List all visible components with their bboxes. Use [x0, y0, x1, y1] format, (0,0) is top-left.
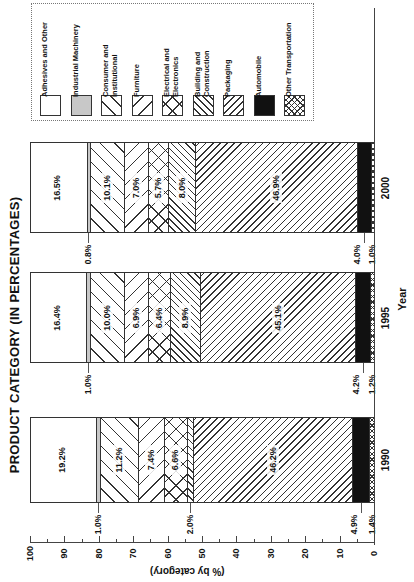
segment-value-label: 46.9%	[270, 173, 282, 203]
year-tick-label: 1995	[380, 301, 392, 335]
segment-value-label: 11.2%	[113, 445, 125, 475]
axis-minor-tick	[116, 539, 117, 542]
value-axis-label: (% by category)	[150, 566, 224, 577]
axis-minor-tick	[219, 539, 220, 542]
axis-minor-tick	[82, 539, 83, 542]
axis-tick	[30, 536, 31, 542]
segment-callout-label: 1.0%	[82, 370, 93, 400]
axis-tick-label: 70	[128, 543, 139, 565]
segment-callout-label: 1.4%	[367, 510, 378, 540]
segment-callout-label: 1.0%	[367, 240, 378, 270]
axis-tick	[64, 536, 65, 542]
plot-area: 19.2%1.0%11.2%7.4%6.6%2.0%46.2%4.9%1.4%1…	[0, 0, 414, 582]
axis-minor-tick	[322, 539, 323, 542]
segment-callout-label: 1.2%	[367, 370, 378, 400]
bar-segment-automobile	[357, 142, 372, 233]
segment-callout-label: 4.9%	[348, 510, 359, 540]
segment-value-label: 6.6%	[169, 445, 181, 475]
axis-tick	[133, 536, 134, 542]
callout-leader-line	[363, 363, 364, 373]
callout-leader-line	[364, 233, 365, 243]
segment-callout-label: 4.2%	[350, 370, 361, 400]
axis-tick-label: 20	[300, 543, 311, 565]
segment-value-label: 6.9%	[130, 303, 142, 333]
callout-leader-line	[361, 503, 362, 513]
axis-tick	[305, 536, 306, 542]
axis-tick-label: 90	[59, 543, 70, 565]
bar-segment-automobile	[355, 272, 370, 363]
axis-tick	[99, 536, 100, 542]
segment-callout-label: 4.0%	[351, 240, 362, 270]
axis-tick-label: 60	[162, 543, 173, 565]
bar-segment-automobile	[352, 417, 370, 503]
segment-value-label: 10.1%	[101, 173, 113, 203]
segment-value-label: 7.0%	[130, 173, 142, 203]
axis-tick	[202, 536, 203, 542]
axis-tick	[374, 536, 375, 542]
axis-tick-label: 10	[334, 543, 345, 565]
axis-tick	[340, 536, 341, 542]
axis-tick-label: 80	[93, 543, 104, 565]
axis-tick	[168, 536, 169, 542]
segment-value-label: 7.4%	[145, 445, 157, 475]
segment-callout-label: 1.0%	[93, 510, 104, 540]
segment-value-label: 16.4%	[52, 298, 64, 338]
axis-tick-label: 0	[369, 543, 380, 565]
axis-minor-tick	[150, 539, 151, 542]
segment-value-label: 5.7%	[152, 173, 164, 203]
axis-tick-label: 100	[25, 543, 36, 565]
axis-minor-tick	[47, 539, 48, 542]
segment-value-label: 8.9%	[179, 303, 191, 333]
segment-callout-label: 0.8%	[83, 240, 94, 270]
zero-baseline	[374, 8, 375, 545]
segment-value-label: 6.4%	[153, 303, 165, 333]
axis-tick	[271, 536, 272, 542]
axis-tick-label: 40	[231, 543, 242, 565]
axis-tick	[236, 536, 237, 542]
year-tick-label: 1990	[380, 443, 392, 477]
axis-tick-label: 50	[197, 543, 208, 565]
axis-minor-tick	[357, 539, 358, 542]
segment-value-label: 45.1%	[272, 303, 284, 333]
segment-value-label: 19.2%	[57, 440, 69, 480]
axis-minor-tick	[288, 539, 289, 542]
axis-minor-tick	[185, 539, 186, 542]
axis-tick-label: 30	[265, 543, 276, 565]
segment-value-label: 8.0%	[176, 173, 188, 203]
segment-callout-label: 2.0%	[184, 510, 195, 540]
segment-value-label: 46.2%	[267, 445, 279, 475]
segment-value-label: 10.0%	[101, 303, 113, 333]
year-axis-label: Year	[396, 284, 410, 314]
segment-value-label: 16.5%	[52, 168, 64, 208]
axis-minor-tick	[254, 539, 255, 542]
year-tick-label: 2000	[380, 171, 392, 205]
